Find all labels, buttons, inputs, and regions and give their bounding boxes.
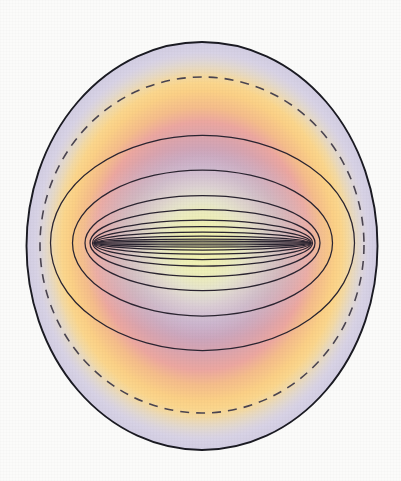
rim-veil: [27, 42, 378, 450]
confocal-ellipse-diagram: [0, 0, 401, 481]
color-field-group: [27, 42, 378, 450]
figure-canvas: [0, 0, 401, 481]
